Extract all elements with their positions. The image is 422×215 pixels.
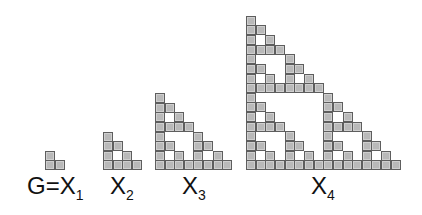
cell: [362, 160, 372, 170]
cell: [246, 122, 256, 132]
cell: [304, 160, 314, 170]
cell: [103, 151, 113, 161]
cell: [285, 54, 295, 64]
cell: [285, 64, 295, 74]
cell: [265, 112, 275, 122]
cell: [165, 160, 175, 170]
cell: [333, 141, 343, 151]
cell: [155, 93, 165, 103]
cell: [246, 83, 256, 93]
label-x2-main: X: [110, 172, 126, 199]
cell: [256, 122, 266, 132]
cell: [371, 141, 381, 151]
cell: [314, 83, 324, 93]
cell: [294, 141, 304, 151]
cell: [246, 112, 256, 122]
cell: [165, 141, 175, 151]
cell: [103, 132, 113, 142]
cell: [193, 141, 203, 151]
cell: [246, 131, 256, 141]
cell: [275, 122, 285, 132]
cell: [45, 151, 55, 161]
cell: [285, 131, 295, 141]
cell: [323, 141, 333, 151]
cell: [323, 160, 333, 170]
cell: [304, 83, 314, 93]
cell: [285, 141, 295, 151]
cell: [265, 122, 275, 132]
cell: [256, 83, 266, 93]
label-x2: X2: [110, 174, 134, 202]
label-x1-sub: 1: [76, 187, 84, 203]
label-x1: G=X1: [27, 174, 84, 202]
cell: [213, 160, 223, 170]
label-x1-main: G=X: [27, 172, 76, 199]
cell: [132, 160, 142, 170]
cell: [246, 93, 256, 103]
cell: [275, 83, 285, 93]
cell: [155, 103, 165, 113]
cell: [246, 151, 256, 161]
cell: [155, 122, 165, 132]
cell: [265, 35, 275, 45]
cell: [256, 102, 266, 112]
cell: [323, 131, 333, 141]
cell: [55, 160, 65, 170]
cell: [122, 151, 132, 161]
cell: [155, 132, 165, 142]
cell: [371, 160, 381, 170]
cell: [113, 141, 123, 151]
cell: [323, 151, 333, 161]
cell: [362, 141, 372, 151]
cell: [246, 160, 256, 170]
label-x3-sub: 3: [198, 187, 206, 203]
cell: [285, 160, 295, 170]
cell: [381, 151, 391, 161]
cell: [193, 160, 203, 170]
label-x3-main: X: [182, 172, 198, 199]
cell: [155, 141, 165, 151]
cell: [304, 151, 314, 161]
cell: [294, 64, 304, 74]
cell: [265, 83, 275, 93]
cell: [165, 122, 175, 132]
cell: [246, 141, 256, 151]
cell: [314, 160, 324, 170]
cell: [246, 35, 256, 45]
cell: [275, 45, 285, 55]
cell: [155, 112, 165, 122]
cell: [275, 160, 285, 170]
cell: [103, 141, 113, 151]
cell: [362, 151, 372, 161]
cell: [193, 132, 203, 142]
cell: [323, 122, 333, 132]
cell: [304, 74, 314, 84]
cell: [343, 151, 353, 161]
cell: [222, 160, 232, 170]
cell: [246, 74, 256, 84]
label-x4-main: X: [311, 172, 327, 199]
cell: [256, 141, 266, 151]
cell: [333, 160, 343, 170]
cell: [184, 160, 194, 170]
cell: [256, 64, 266, 74]
cell: [174, 122, 184, 132]
cell: [333, 122, 343, 132]
cell: [323, 112, 333, 122]
cell: [265, 160, 275, 170]
cell: [352, 122, 362, 132]
cell: [323, 102, 333, 112]
cell: [256, 45, 266, 55]
cell: [294, 83, 304, 93]
cell: [256, 25, 266, 35]
cell: [265, 151, 275, 161]
cell: [174, 160, 184, 170]
cell: [203, 160, 213, 170]
label-x3: X3: [182, 174, 206, 202]
cell: [391, 160, 401, 170]
cell: [103, 160, 113, 170]
cell: [246, 16, 256, 26]
cell: [343, 122, 353, 132]
cell: [213, 151, 223, 161]
cell: [285, 83, 295, 93]
